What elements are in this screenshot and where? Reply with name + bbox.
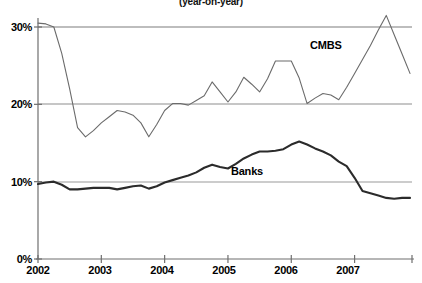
y-axis-label-10: 10% [0,176,32,188]
series-line-banks [38,141,410,198]
chart-plot-area [0,0,422,283]
x-axis-label-2003: 2003 [78,264,122,276]
x-axis-label-2005: 2005 [202,264,246,276]
series-line-cmbs [38,15,410,136]
x-axis-label-2007: 2007 [326,264,370,276]
gridlines [38,27,412,182]
y-axis-label-20: 20% [0,98,32,110]
series-annotation-banks: Banks [231,165,263,177]
x-axis-label-2004: 2004 [140,264,184,276]
y-axis-label-30: 30% [0,21,32,33]
chart-container: (year-on-year) 30% 20% 10% 0% 2002 2003 … [0,0,422,283]
series-annotation-cmbs: CMBS [310,39,342,51]
x-axis-label-2002: 2002 [16,264,60,276]
x-axis-label-2006: 2006 [264,264,308,276]
